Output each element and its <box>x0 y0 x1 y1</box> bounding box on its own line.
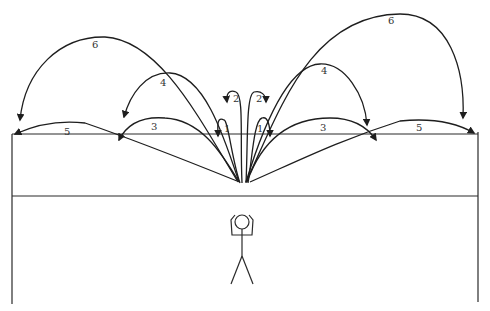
figure-left-leg <box>231 256 242 284</box>
trajectory-right-4 <box>246 64 367 182</box>
trajectory-right-6 <box>246 14 463 182</box>
trajectories-right <box>246 14 474 183</box>
label-left-3: 3 <box>151 121 157 132</box>
label-left-1: 1 <box>224 123 230 134</box>
trajectory-left-5 <box>15 122 237 181</box>
label-right-4: 4 <box>321 65 327 76</box>
figure-head <box>235 215 249 229</box>
trajectory-right-2 <box>246 92 266 183</box>
trajectory-right-3 <box>247 118 376 182</box>
label-left-6: 6 <box>92 39 98 50</box>
label-right-1: 1 <box>257 123 263 134</box>
trajectory-right-5 <box>250 120 474 182</box>
label-left-2: 2 <box>233 93 239 104</box>
trajectory-left-4 <box>124 73 239 182</box>
trajectories-left <box>15 37 242 183</box>
trajectory-diagram: 1 2 3 4 5 6 1 2 3 4 5 6 <box>0 0 490 311</box>
label-left-5: 5 <box>64 126 70 137</box>
trajectory-left-3 <box>119 118 239 182</box>
stick-figure-icon <box>231 215 253 284</box>
label-right-3: 3 <box>320 122 326 133</box>
figure-right-leg <box>242 256 253 284</box>
label-right-6: 6 <box>388 15 394 26</box>
label-right-5: 5 <box>416 122 422 133</box>
label-right-2: 2 <box>256 93 262 104</box>
court <box>12 132 478 304</box>
trajectory-labels: 1 2 3 4 5 6 1 2 3 4 5 6 <box>64 15 422 137</box>
trajectory-left-6 <box>20 37 238 182</box>
label-left-4: 4 <box>160 77 166 88</box>
